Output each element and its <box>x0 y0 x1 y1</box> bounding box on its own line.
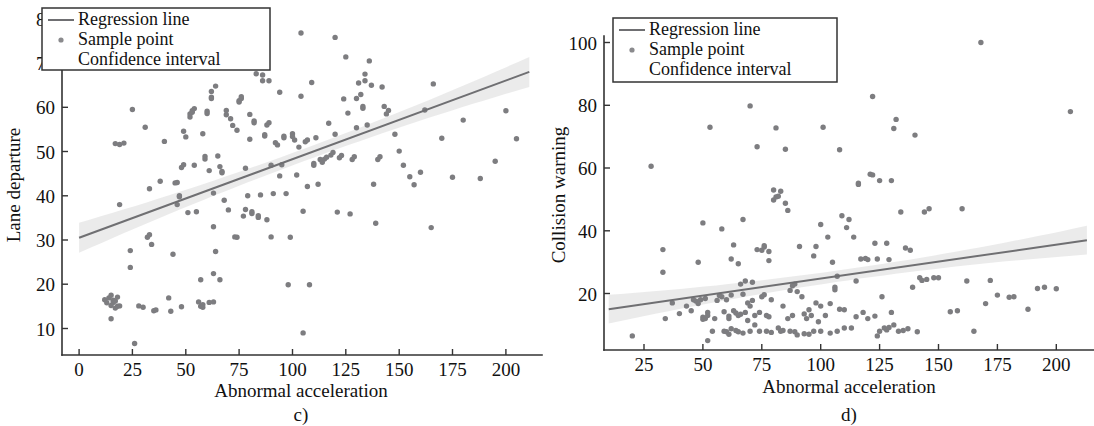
sample-point <box>401 163 406 168</box>
sample-point <box>825 234 830 239</box>
x-tick-label: 75 <box>230 359 249 380</box>
sample-point <box>875 256 880 261</box>
sample-point <box>108 293 113 298</box>
sample-point <box>292 137 297 142</box>
sample-point <box>207 168 212 173</box>
sample-point <box>226 207 231 212</box>
sample-point <box>117 303 122 308</box>
y-tick-label: 80 <box>578 95 597 116</box>
sample-point <box>790 313 795 318</box>
sample-point <box>780 303 785 308</box>
sample-point <box>162 139 167 144</box>
x-axis-title: Abnormal acceleration <box>762 376 936 397</box>
sample-point <box>870 172 875 177</box>
sample-point <box>175 180 180 185</box>
sample-point <box>335 209 340 214</box>
legend-item-label: Sample point <box>78 29 174 49</box>
sample-point <box>712 316 717 321</box>
sample-point <box>846 217 851 222</box>
legend-item-label: Confidence interval <box>78 49 220 69</box>
sample-point <box>884 241 889 246</box>
y-tick-label: 40 <box>36 186 55 207</box>
sample-point <box>356 80 361 85</box>
sample-point <box>908 248 913 253</box>
sample-point <box>379 84 384 89</box>
sample-point <box>149 242 154 247</box>
sample-point <box>738 281 743 286</box>
sample-point <box>283 191 288 196</box>
sample-point <box>230 123 235 128</box>
sample-point <box>211 190 216 195</box>
sample-point <box>828 330 833 335</box>
sample-point <box>352 154 357 159</box>
sample-point <box>213 249 218 254</box>
sample-point <box>298 30 303 35</box>
sample-point <box>260 78 265 83</box>
sample-point <box>461 117 466 122</box>
sample-point <box>771 187 776 192</box>
x-tick-label: 25 <box>123 359 142 380</box>
sample-point <box>931 275 936 280</box>
sample-point <box>429 225 434 230</box>
sample-point <box>818 222 823 227</box>
sample-point <box>842 325 847 330</box>
sample-point <box>764 329 769 334</box>
sample-point <box>158 179 163 184</box>
sample-point <box>313 135 318 140</box>
sample-point <box>773 125 778 130</box>
sample-point <box>239 94 244 99</box>
sample-point <box>181 162 186 167</box>
sample-point <box>392 132 397 137</box>
sample-point <box>450 175 455 180</box>
sample-point <box>1007 295 1012 300</box>
sample-point <box>345 110 350 115</box>
x-tick-label: 50 <box>693 354 712 375</box>
sample-point <box>132 341 137 346</box>
sample-point <box>787 288 792 293</box>
sample-point <box>677 311 682 316</box>
sample-point <box>181 129 186 134</box>
x-tick-label: 25 <box>635 354 654 375</box>
sample-point <box>153 307 158 312</box>
sample-point <box>766 258 771 263</box>
sample-point <box>835 329 840 334</box>
sample-point <box>166 295 171 300</box>
sample-point <box>754 247 759 252</box>
sample-point <box>740 330 745 335</box>
sample-point <box>369 83 374 88</box>
y-tick-label: 40 <box>578 221 597 242</box>
legend-item-label: Confidence interval <box>649 59 791 79</box>
sample-point <box>170 252 175 257</box>
sample-point <box>736 261 741 266</box>
sample-point <box>729 326 734 331</box>
sample-point <box>386 108 391 113</box>
sample-point <box>200 302 205 307</box>
sample-point <box>689 308 694 313</box>
sample-point <box>719 226 724 231</box>
sample-point <box>757 310 762 315</box>
sample-point <box>823 313 828 318</box>
sample-point <box>879 294 884 299</box>
sample-point <box>211 299 216 304</box>
sample-point <box>783 201 788 206</box>
sample-point <box>128 265 133 270</box>
x-tick-label: 200 <box>1042 354 1071 375</box>
legend: Regression lineSample pointConfidence in… <box>613 18 837 82</box>
sample-point <box>326 121 331 126</box>
sample-point <box>192 163 197 168</box>
sample-point <box>177 194 182 199</box>
y-tick-label: 20 <box>36 274 55 295</box>
sample-point <box>893 117 898 122</box>
sample-point <box>769 297 774 302</box>
sample-point <box>200 131 205 136</box>
sample-point <box>266 78 271 83</box>
sample-point <box>286 282 291 287</box>
sample-point <box>439 136 444 141</box>
panel-subcaption: d) <box>841 404 857 426</box>
sample-point <box>275 142 280 147</box>
sample-point <box>851 234 856 239</box>
sample-point <box>660 270 665 275</box>
sample-point <box>354 96 359 101</box>
sample-point <box>877 329 882 334</box>
x-tick-label: 100 <box>278 359 307 380</box>
